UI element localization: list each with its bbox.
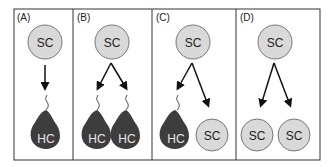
lineage-diagram: (A) SC HC (B) SC HC HC (C) SC [0, 0, 333, 167]
hair-cell-icon: HC [111, 95, 140, 149]
hair-cell-icon: HC [31, 95, 60, 149]
cell-label: HC [37, 132, 55, 146]
panel-d: (D) SC SC SC [240, 12, 310, 151]
arrow-icon [192, 63, 208, 105]
arrow-icon [178, 63, 192, 88]
panel-c: (C) SC HC SC [156, 12, 228, 151]
cell-label: SC [267, 36, 284, 50]
hair-cell-icon: HC [160, 95, 189, 149]
panel-label: (C) [156, 12, 170, 23]
hair-cell-icon: HC [82, 95, 111, 149]
cell-label: SC [37, 36, 54, 50]
arrow-icon [261, 63, 274, 105]
cell-label: HC [118, 132, 136, 146]
panel-label: (A) [17, 12, 30, 23]
panel-label: (B) [77, 12, 90, 23]
cell-label: SC [185, 36, 202, 50]
cell-label: SC [249, 129, 266, 143]
arrow-icon [98, 63, 111, 88]
arrow-icon [111, 63, 126, 88]
cell-label: SC [104, 36, 121, 50]
panel-label: (D) [240, 12, 254, 23]
cell-label: SC [204, 129, 221, 143]
arrow-icon [274, 63, 290, 105]
panel-b: (B) SC HC HC [77, 12, 140, 149]
panel-a: (A) SC HC [17, 12, 62, 149]
cell-label: HC [88, 132, 106, 146]
cell-label: SC [286, 129, 303, 143]
cell-label: HC [167, 132, 185, 146]
